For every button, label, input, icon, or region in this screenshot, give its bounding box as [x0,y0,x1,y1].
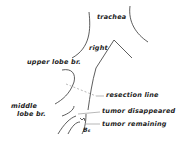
intermediate-bronchus-wall [88,68,96,110]
label-right: right [89,44,108,52]
label-trachea: trachea [97,13,126,21]
lower-bronchus-b6 [68,122,80,134]
label-lobe-bronchus: lobe br. [17,110,46,118]
tumor-remaining-mark [80,118,85,121]
trachea-left-wall [72,12,90,58]
label-b6: B₆ [83,126,91,133]
label-tumor-disappeared: tumor disappeared [102,107,175,115]
tumor-disappeared-leader [78,112,100,114]
label-upper-lobe-bronchus: upper lobe br. [27,58,81,66]
middle-lobe-bronchus-wall [62,106,74,116]
label-middle: middle [11,102,37,110]
trachea-right-wall [130,6,148,42]
lower-bronchus-left [58,116,76,134]
label-tumor-remaining: tumor remaining [102,120,167,128]
upper-lobe-bronchus-wall [55,70,75,104]
label-resection-line: resection line [106,91,159,99]
